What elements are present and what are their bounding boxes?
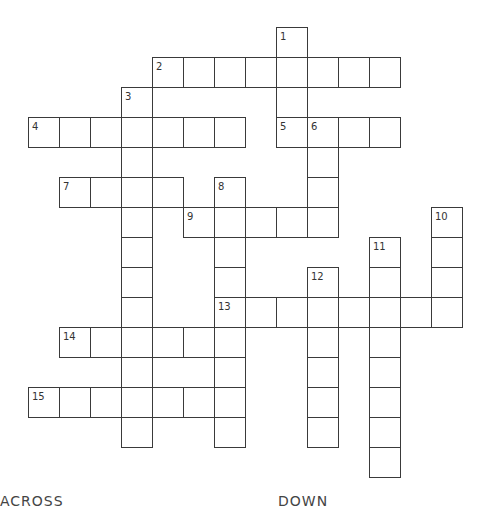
- crossword-cell[interactable]: [152, 177, 184, 208]
- crossword-cell[interactable]: [90, 387, 122, 418]
- clue-number: 3: [125, 92, 131, 102]
- crossword-cell[interactable]: [121, 357, 153, 388]
- crossword-cell[interactable]: [183, 57, 215, 88]
- clue-number: 4: [32, 122, 38, 132]
- crossword-cell[interactable]: [307, 147, 339, 178]
- crossword-cell[interactable]: [307, 417, 339, 448]
- crossword-cell[interactable]: [214, 357, 246, 388]
- crossword-cell[interactable]: 13: [214, 297, 246, 328]
- crossword-cell[interactable]: [214, 117, 246, 148]
- crossword-cell[interactable]: [183, 327, 215, 358]
- crossword-cell[interactable]: 6: [307, 117, 339, 148]
- crossword-cell[interactable]: [121, 237, 153, 268]
- crossword-cell[interactable]: [338, 57, 370, 88]
- crossword-cell[interactable]: [369, 57, 401, 88]
- crossword-cell[interactable]: [369, 327, 401, 358]
- crossword-cell[interactable]: [307, 297, 339, 328]
- crossword-cell[interactable]: [307, 207, 339, 238]
- crossword-cell[interactable]: [307, 327, 339, 358]
- crossword-cell[interactable]: [152, 327, 184, 358]
- crossword-cell[interactable]: [90, 327, 122, 358]
- crossword-cell[interactable]: [369, 447, 401, 478]
- crossword-cell[interactable]: [183, 117, 215, 148]
- crossword-cell[interactable]: 4: [28, 117, 60, 148]
- crossword-cell[interactable]: [369, 297, 401, 328]
- crossword-cell[interactable]: [369, 387, 401, 418]
- crossword-cell[interactable]: [307, 57, 339, 88]
- crossword-cell[interactable]: [121, 387, 153, 418]
- crossword-cell[interactable]: [338, 297, 370, 328]
- clue-number: 6: [311, 122, 317, 132]
- crossword-cell[interactable]: [431, 297, 463, 328]
- crossword-cell[interactable]: [121, 327, 153, 358]
- crossword-cell[interactable]: [121, 297, 153, 328]
- crossword-cell[interactable]: 3: [121, 87, 153, 118]
- clue-number: 13: [218, 302, 231, 312]
- crossword-cell[interactable]: [90, 117, 122, 148]
- crossword-cell[interactable]: [276, 57, 308, 88]
- crossword-cell[interactable]: 10: [431, 207, 463, 238]
- crossword-cell[interactable]: [121, 207, 153, 238]
- crossword-cell[interactable]: 11: [369, 237, 401, 268]
- crossword-cell[interactable]: [369, 417, 401, 448]
- crossword-cell[interactable]: [214, 237, 246, 268]
- crossword-cell[interactable]: 12: [307, 267, 339, 298]
- crossword-cell[interactable]: [152, 387, 184, 418]
- clue-number: 8: [218, 182, 224, 192]
- crossword-cell[interactable]: [307, 357, 339, 388]
- crossword-cell[interactable]: [214, 57, 246, 88]
- clue-number: 12: [311, 272, 324, 282]
- crossword-cell[interactable]: [338, 117, 370, 148]
- clue-number: 5: [280, 122, 286, 132]
- crossword-cell[interactable]: [59, 117, 91, 148]
- crossword-cell[interactable]: [214, 267, 246, 298]
- clue-number: 2: [156, 62, 162, 72]
- crossword-cell[interactable]: [121, 117, 153, 148]
- crossword-cell[interactable]: [276, 297, 308, 328]
- crossword-cell[interactable]: [245, 57, 277, 88]
- crossword-cell[interactable]: 5: [276, 117, 308, 148]
- crossword-cell[interactable]: [307, 387, 339, 418]
- crossword-cell[interactable]: [400, 297, 432, 328]
- crossword-cell[interactable]: [214, 387, 246, 418]
- clue-number: 9: [187, 212, 193, 222]
- crossword-cell[interactable]: [59, 387, 91, 418]
- crossword-cell[interactable]: [276, 87, 308, 118]
- crossword-cell[interactable]: [121, 267, 153, 298]
- clue-number: 1: [280, 32, 286, 42]
- crossword-cell[interactable]: 8: [214, 177, 246, 208]
- crossword-cell[interactable]: 14: [59, 327, 91, 358]
- crossword-cell[interactable]: 7: [59, 177, 91, 208]
- crossword-cell[interactable]: [90, 177, 122, 208]
- clue-number: 11: [373, 242, 386, 252]
- crossword-cell[interactable]: [307, 177, 339, 208]
- crossword-cell[interactable]: [369, 357, 401, 388]
- crossword-cell[interactable]: 1: [276, 27, 308, 58]
- crossword-cell[interactable]: [214, 417, 246, 448]
- crossword-cell[interactable]: [431, 267, 463, 298]
- clue-number: 15: [32, 392, 45, 402]
- crossword-cell[interactable]: 15: [28, 387, 60, 418]
- crossword-cell[interactable]: [369, 117, 401, 148]
- crossword-grid: 152346781391011121415: [0, 0, 486, 480]
- crossword-cell[interactable]: [152, 117, 184, 148]
- crossword-cell[interactable]: 2: [152, 57, 184, 88]
- crossword-cell[interactable]: [183, 387, 215, 418]
- clue-number: 14: [63, 332, 76, 342]
- crossword-cell[interactable]: [245, 297, 277, 328]
- crossword-cell[interactable]: [121, 147, 153, 178]
- crossword-cell[interactable]: [369, 267, 401, 298]
- crossword-cell[interactable]: 9: [183, 207, 215, 238]
- crossword-cell[interactable]: [214, 207, 246, 238]
- crossword-cell[interactable]: [214, 327, 246, 358]
- crossword-cell[interactable]: [431, 237, 463, 268]
- crossword-cell[interactable]: [276, 207, 308, 238]
- down-heading: DOWN: [278, 493, 328, 509]
- crossword-cell[interactable]: [245, 207, 277, 238]
- across-heading: ACROSS: [0, 493, 64, 509]
- clue-number: 10: [435, 212, 448, 222]
- crossword-cell[interactable]: [121, 417, 153, 448]
- clue-number: 7: [63, 182, 69, 192]
- crossword-cell[interactable]: [121, 177, 153, 208]
